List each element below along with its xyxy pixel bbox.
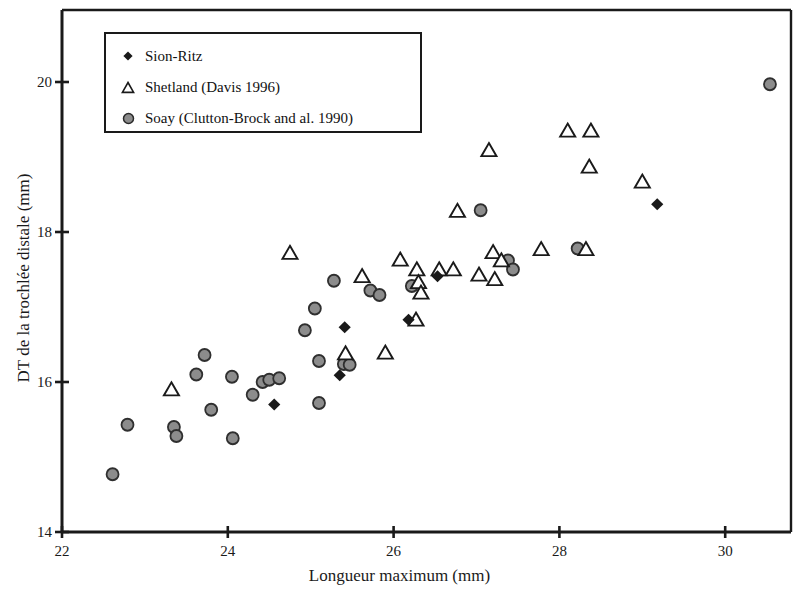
data-point-shetland bbox=[164, 382, 179, 395]
data-point-shetland bbox=[560, 124, 575, 137]
triangle-marker-icon bbox=[120, 81, 136, 94]
legend-label-sion-ritz: Sion-Ritz bbox=[145, 48, 203, 65]
y-axis-title: DT de la trochlée distale (mm) bbox=[14, 148, 34, 408]
legend-item-sion-ritz: Sion-Ritz bbox=[120, 46, 203, 66]
axis-ticks bbox=[55, 82, 725, 538]
data-point-soay bbox=[309, 303, 321, 315]
data-point-shetland bbox=[471, 268, 486, 281]
data-point-soay bbox=[205, 404, 217, 416]
data-point-shetland bbox=[481, 143, 496, 156]
data-point-shetland bbox=[282, 246, 297, 259]
data-point-soay bbox=[226, 371, 238, 383]
data-point-soay bbox=[328, 275, 340, 287]
x-tick-label: 26 bbox=[386, 543, 401, 560]
data-point-soay bbox=[199, 349, 211, 361]
data-point-shetland bbox=[635, 175, 650, 188]
y-tick-label: 16 bbox=[22, 374, 52, 391]
data-point-soay bbox=[247, 389, 259, 401]
data-point-shetland bbox=[487, 272, 502, 285]
data-point-shetland bbox=[338, 346, 353, 359]
data-point-shetland bbox=[409, 262, 424, 275]
data-point-shetland bbox=[582, 160, 597, 173]
diamond-marker-icon bbox=[120, 50, 136, 62]
x-tick-label: 28 bbox=[552, 543, 567, 560]
y-tick-label: 14 bbox=[22, 524, 52, 541]
data-point-soay bbox=[227, 432, 239, 444]
legend-label-shetland: Shetland (Davis 1996) bbox=[145, 79, 280, 96]
x-tick-label: 22 bbox=[55, 543, 70, 560]
data-point-soay bbox=[475, 204, 487, 216]
data-point-shetland bbox=[446, 262, 461, 275]
data-point-soay bbox=[190, 369, 202, 381]
data-point-soay bbox=[273, 372, 285, 384]
data-point-sion-ritz bbox=[651, 198, 663, 210]
legend: Sion-Ritz Shetland (Davis 1996) Soay (Cl… bbox=[104, 32, 422, 133]
data-point-soay bbox=[107, 468, 119, 480]
data-point-sion-ritz bbox=[268, 398, 280, 410]
data-point-sion-ritz bbox=[334, 369, 346, 381]
data-point-soay bbox=[344, 359, 356, 371]
legend-label-soay: Soay (Clutton-Brock and al. 1990) bbox=[145, 110, 353, 127]
data-point-soay bbox=[313, 355, 325, 367]
x-tick-label: 30 bbox=[718, 543, 733, 560]
data-point-soay bbox=[299, 324, 311, 336]
data-point-sion-ritz bbox=[339, 321, 351, 333]
data-point-shetland bbox=[378, 346, 393, 359]
legend-item-soay: Soay (Clutton-Brock and al. 1990) bbox=[120, 108, 353, 128]
data-point-shetland bbox=[583, 124, 598, 137]
data-point-shetland bbox=[355, 269, 370, 282]
x-tick-label: 24 bbox=[220, 543, 235, 560]
data-point-shetland bbox=[393, 253, 408, 266]
circle-marker-icon bbox=[120, 112, 136, 125]
data-point-soay bbox=[374, 289, 386, 301]
y-tick-label: 20 bbox=[22, 74, 52, 91]
data-point-soay bbox=[170, 430, 182, 442]
data-point-shetland bbox=[450, 204, 465, 217]
data-point-soay bbox=[121, 419, 133, 431]
legend-item-shetland: Shetland (Davis 1996) bbox=[120, 77, 280, 97]
data-point-shetland bbox=[486, 245, 501, 258]
data-point-soay bbox=[764, 78, 776, 90]
x-axis-title: Longueur maximum (mm) bbox=[0, 566, 799, 586]
y-tick-label: 18 bbox=[22, 224, 52, 241]
data-point-shetland bbox=[534, 242, 549, 255]
data-points-layer bbox=[107, 78, 776, 480]
data-point-soay bbox=[313, 397, 325, 409]
